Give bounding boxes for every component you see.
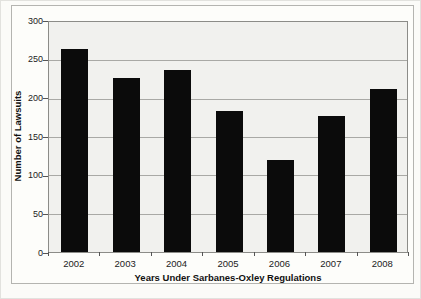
x-tick-label-2005: 2005 (202, 258, 253, 270)
y-tick-label-100: 100 (15, 170, 43, 181)
y-tick-mark-300 (43, 21, 48, 22)
bar-2006 (267, 160, 294, 252)
bar-2008 (370, 89, 397, 252)
x-tick-label-2004: 2004 (151, 258, 202, 270)
y-tick-label-300: 300 (15, 16, 43, 27)
y-tick-label-200: 200 (15, 93, 43, 104)
bar-2007 (318, 116, 345, 252)
chart-screenshot: Number of Lawsuits Years Under Sarbanes-… (0, 0, 421, 299)
x-tick-mark-6 (357, 252, 358, 256)
x-tick-mark-3 (202, 252, 203, 256)
gridline-250 (49, 60, 407, 61)
y-tick-label-250: 250 (15, 54, 43, 65)
x-tick-mark-0 (48, 252, 49, 256)
x-tick-mark-1 (99, 252, 100, 256)
y-tick-mark-150 (43, 137, 48, 138)
x-tick-mark-4 (254, 252, 255, 256)
y-tick-mark-100 (43, 176, 48, 177)
y-tick-label-150: 150 (15, 132, 43, 143)
y-tick-label-0: 0 (15, 248, 43, 259)
bar-2005 (216, 111, 243, 252)
y-tick-mark-200 (43, 98, 48, 99)
x-tick-label-2008: 2008 (357, 258, 408, 270)
x-tick-label-2007: 2007 (305, 258, 356, 270)
x-tick-mark-2 (151, 252, 152, 256)
y-tick-mark-50 (43, 214, 48, 215)
x-tick-label-2003: 2003 (99, 258, 150, 270)
bar-2002 (61, 49, 88, 252)
plot-area (48, 21, 408, 253)
x-tick-mark-5 (305, 252, 306, 256)
bar-2003 (113, 78, 140, 252)
bar-2004 (164, 70, 191, 252)
x-tick-label-2006: 2006 (254, 258, 305, 270)
gridline-200 (49, 99, 407, 100)
x-tick-label-2002: 2002 (48, 258, 99, 270)
y-tick-label-50: 50 (15, 209, 43, 220)
x-axis-title: Years Under Sarbanes-Oxley Regulations (48, 271, 408, 284)
y-tick-mark-250 (43, 60, 48, 61)
chart-frame: Number of Lawsuits Years Under Sarbanes-… (11, 5, 414, 284)
x-tick-mark-7 (408, 252, 409, 256)
